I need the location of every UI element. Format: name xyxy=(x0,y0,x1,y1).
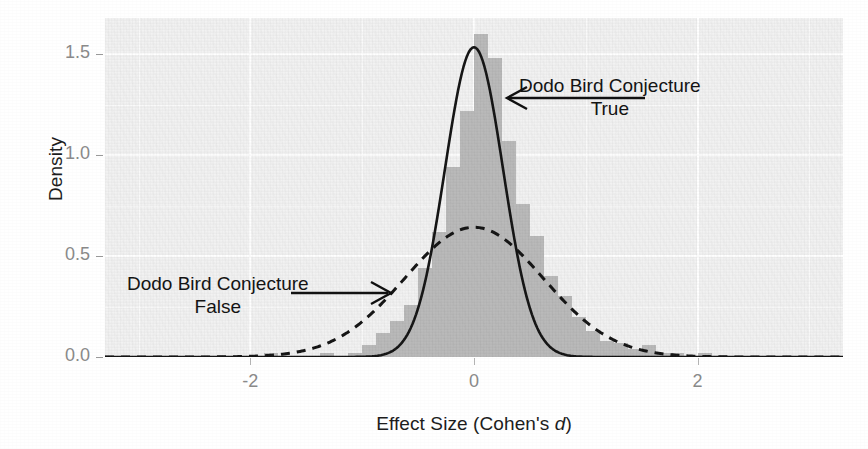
y-axis-tick-label: 1.5 xyxy=(32,42,90,63)
x-axis-tick-label: 0 xyxy=(454,371,494,392)
y-axis-tick-mark xyxy=(96,256,103,257)
x-axis-title: Effect Size (Cohen's d) xyxy=(105,413,843,435)
annotation-dodo-false-line1: Dodo Bird Conjecture xyxy=(127,272,309,295)
x-axis-tick-mark xyxy=(250,358,251,365)
annotation-dodo-true: Dodo Bird Conjecture True xyxy=(519,74,701,120)
annotation-dodo-false-line2: False xyxy=(127,295,309,318)
y-axis-tick-mark xyxy=(96,155,103,156)
x-axis-title-prefix: Effect Size (Cohen's xyxy=(376,413,555,434)
annotation-dodo-true-line1: Dodo Bird Conjecture xyxy=(519,74,701,97)
annotation-dodo-true-line2: True xyxy=(519,97,701,120)
x-axis-tick-label: -2 xyxy=(230,371,270,392)
density-figure: 0.00.51.01.5 -202 Density Effect Size (C… xyxy=(0,0,868,449)
x-axis-tick-label: 2 xyxy=(678,371,718,392)
y-axis-tick-label: 0.0 xyxy=(32,345,90,366)
x-axis-tick-mark xyxy=(474,358,475,365)
y-axis-tick-label: 0.5 xyxy=(32,244,90,265)
x-axis-title-suffix: ) xyxy=(565,413,571,434)
annotation-dodo-false: Dodo Bird Conjecture False xyxy=(127,272,309,318)
x-axis-title-italic-d: d xyxy=(555,413,566,434)
x-axis-tick-mark xyxy=(698,358,699,365)
y-axis-title: Density xyxy=(45,109,67,229)
y-axis-tick-mark xyxy=(96,357,103,358)
y-axis-tick-mark xyxy=(96,54,103,55)
